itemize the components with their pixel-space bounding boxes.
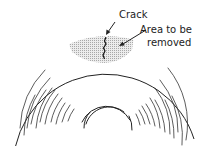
crack-label: Crack (119, 9, 148, 20)
area-label-line2: removed (147, 37, 191, 48)
outer-edge (16, 74, 194, 146)
crack-arrow (106, 22, 115, 35)
center-label-ring (82, 106, 132, 130)
disc-diagram: Crack Area to be removed (0, 0, 208, 157)
area-label-line1: Area to be (140, 24, 192, 35)
area-to-be-removed (66, 36, 134, 63)
